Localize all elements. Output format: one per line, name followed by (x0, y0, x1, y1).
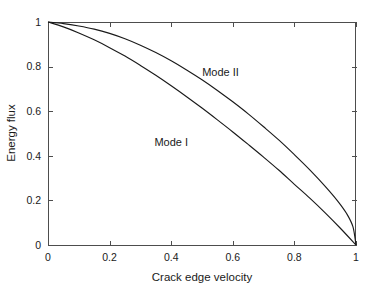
y-tick-label: 0.8 (26, 60, 41, 72)
x-tick-label: 0.2 (102, 251, 117, 263)
y-tick-label: 0.4 (26, 150, 41, 162)
y-tick-labels: 00.20.40.60.81 (26, 16, 41, 251)
chart-canvas: 00.20.40.60.81 00.20.40.60.81 Mode IIMod… (0, 0, 382, 290)
y-axis-title: Energy flux (5, 104, 17, 162)
plot-frame-rect (49, 23, 356, 246)
series-annotations: Mode IIMode I (154, 66, 238, 148)
y-tick-label: 0.2 (26, 194, 41, 206)
curve-mode-ii (48, 22, 356, 245)
x-tick-label: 1 (353, 251, 359, 263)
data-curves (48, 22, 356, 245)
y-tick-label: 1 (35, 16, 41, 28)
x-tick-label: 0.4 (164, 251, 179, 263)
plot-frame (49, 23, 356, 246)
x-axis-title: Crack edge velocity (152, 271, 253, 283)
annotation-mode-ii: Mode II (202, 66, 239, 78)
chart-figure: 00.20.40.60.81 00.20.40.60.81 Mode IIMod… (0, 0, 382, 290)
x-tick-label: 0.6 (225, 251, 240, 263)
x-tick-label: 0 (45, 251, 51, 263)
x-tick-labels: 00.20.40.60.81 (45, 251, 359, 263)
y-tick-label: 0 (35, 239, 41, 251)
curve-mode-i (48, 22, 356, 245)
annotation-mode-i: Mode I (154, 136, 188, 148)
y-tick-label: 0.6 (26, 105, 41, 117)
x-tick-label: 0.8 (287, 251, 302, 263)
tick-marks (49, 23, 357, 246)
